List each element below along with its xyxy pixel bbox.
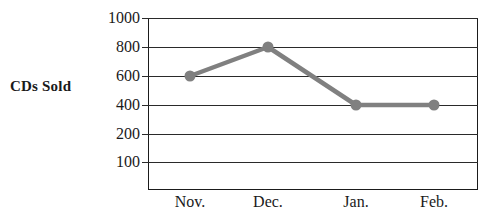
gridline-200 [148,134,478,135]
y-tick-100 [142,162,149,163]
y-tick-label: 200 [95,126,140,142]
gridline-400 [148,105,478,106]
y-tick-label-wrap: 200 [95,126,140,142]
plot-area-frame [148,18,478,190]
x-tick-label-jan: Jan. [321,194,391,210]
y-tick-label: 1000 [95,10,140,26]
y-tick-label-wrap: 1000 [95,10,140,26]
y-tick-label: 100 [95,154,140,170]
y-axis-title: CDs Sold [10,78,105,95]
y-tick-label-wrap: 400 [95,97,140,113]
gridline-600 [148,76,478,77]
y-tick-label-wrap: 800 [95,39,140,55]
y-tick-1000 [142,18,149,19]
y-tick-label: 400 [95,97,140,113]
y-tick-label-wrap: 600 [95,68,140,84]
y-tick-200 [142,134,149,135]
x-tick-label-feb: Feb. [399,194,469,210]
x-tick-label-dec: Dec. [233,194,303,210]
y-tick-800 [142,47,149,48]
y-tick-400 [142,105,149,106]
y-tick-label: 600 [95,68,140,84]
y-tick-label: 800 [95,39,140,55]
y-tick-600 [142,76,149,77]
gridline-1000 [148,18,478,19]
gridline-800 [148,47,478,48]
y-tick-label-wrap: 100 [95,154,140,170]
chart-screenshot: CDs Sold 1000800600400200100 Nov.Dec.Jan… [0,0,487,222]
gridline-100 [148,162,478,163]
x-tick-label-nov: Nov. [155,194,225,210]
